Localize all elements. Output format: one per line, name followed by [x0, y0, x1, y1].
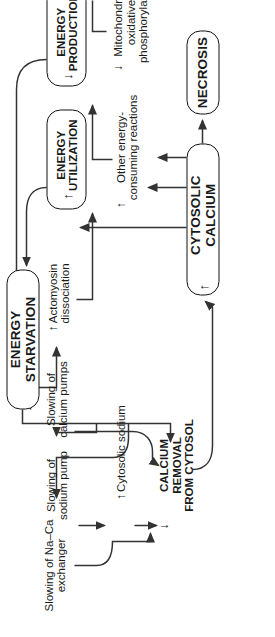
node-energy-utilization-label: ENERGY UTILIZATION — [54, 119, 79, 191]
down-arrow-icon: ↓ — [157, 523, 169, 529]
diagram-canvas: ENERGY STARVATION ↑ CYTOSOLIC CALCIUM NE… — [0, 0, 275, 637]
node-mitochondrial-oxphos-label: Mitochondrial oxidative phosphorylation — [111, 0, 148, 63]
edge-mito-to-prod — [92, 0, 106, 31]
node-actomyosin-dissociation-label: Actomyosin dissociation — [46, 263, 71, 323]
node-energy-production[interactable]: ↓ ENERGY PRODUCTION — [46, 0, 86, 86]
node-energy-starvation-label: ENERGY STARVATION — [8, 274, 37, 404]
node-energy-production-label: ENERGY PRODUCTION — [54, 0, 79, 71]
edge-naca-to-caremoval — [74, 533, 150, 565]
node-slowing-calcium-pumps-label: Slowing of calcium pumps — [44, 361, 69, 438]
node-calcium-removal: ↓ CALCIUM REMOVAL FROM CYTOSOL — [160, 409, 192, 529]
node-necrosis[interactable]: NECROSIS — [186, 30, 219, 114]
node-cytosolic-calcium[interactable]: ↑ CYTOSOLIC CALCIUM — [186, 143, 219, 295]
node-cytosolic-sodium-label: Cytosolic sodium — [114, 405, 126, 492]
node-cytosolic-sodium: ↑ Cytosolic sodium — [110, 397, 130, 507]
node-slowing-sodium-pump-label: Slowing of sodium pump — [44, 450, 69, 519]
node-other-energy-consuming-label: Other energy- consuming reactions — [114, 94, 139, 199]
up-arrow-icon: ↑ — [196, 283, 209, 290]
node-energy-starvation[interactable]: ENERGY STARVATION — [6, 269, 39, 409]
down-arrow-icon: ↓ — [111, 65, 123, 71]
diagram-rotated-layer: ENERGY STARVATION ↑ CYTOSOLIC CALCIUM NE… — [0, 0, 275, 637]
node-mitochondrial-oxphos: ↓ Mitochondrial oxidative phosphorylatio… — [108, 0, 152, 101]
node-calcium-removal-label: CALCIUM REMOVAL FROM CYTOSOL — [157, 409, 194, 521]
node-energy-utilization[interactable]: ↑ ENERGY UTILIZATION — [46, 109, 86, 209]
up-arrow-icon: ↑ — [60, 193, 73, 200]
up-arrow-icon: ↑ — [114, 493, 126, 499]
edge-actomyosin-to-util — [76, 213, 92, 299]
up-arrow-icon: ↑ — [46, 325, 58, 331]
node-slowing-sodium-pump: Slowing of sodium pump — [40, 437, 72, 533]
node-slowing-calcium-pumps: Slowing of calcium pumps — [40, 351, 72, 447]
node-necrosis-label: NECROSIS — [195, 36, 210, 107]
node-cytosolic-calcium-label: CYTOSOLIC CALCIUM — [188, 148, 217, 281]
node-actomyosin-dissociation: ↑ Actomyosin dissociation — [42, 249, 74, 345]
down-arrow-icon: ↓ — [60, 73, 73, 80]
node-other-energy-consuming: ↑ Other energy- consuming reactions — [110, 85, 142, 217]
up-arrow-icon: ↑ — [114, 202, 126, 208]
edge-otherenergy-to-util — [92, 105, 112, 159]
